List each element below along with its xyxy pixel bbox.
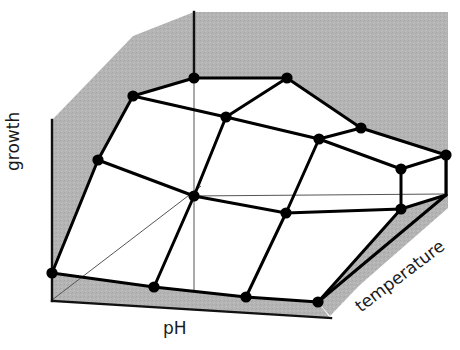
mesh-node bbox=[395, 203, 406, 214]
ph-axis-label: pH bbox=[163, 318, 187, 338]
mesh-edge bbox=[286, 139, 319, 213]
mesh-edge bbox=[98, 160, 194, 196]
mesh-node-dot bbox=[355, 122, 366, 133]
mesh-node-dot bbox=[312, 296, 323, 307]
mesh-node-dot bbox=[395, 163, 406, 174]
mesh-node-dot bbox=[220, 111, 231, 122]
mesh-node-dot bbox=[240, 291, 251, 302]
mesh-node-dot bbox=[440, 149, 451, 160]
mesh-node-dot bbox=[280, 207, 291, 218]
mesh-node bbox=[313, 133, 324, 144]
mesh-node bbox=[440, 149, 451, 160]
thin-horizontal-guide bbox=[189, 194, 444, 196]
mesh-node-dot bbox=[46, 267, 57, 278]
mesh-edge bbox=[226, 78, 287, 117]
mesh-edge bbox=[319, 128, 361, 139]
mesh-node-dot bbox=[188, 72, 199, 83]
mesh-edge bbox=[194, 117, 226, 196]
mesh-node bbox=[395, 163, 406, 174]
response-surface-plot bbox=[0, 0, 460, 350]
mesh-edge bbox=[133, 96, 226, 117]
mesh-edge bbox=[319, 139, 401, 169]
mesh-node bbox=[148, 281, 159, 292]
mesh-node bbox=[92, 154, 103, 165]
mesh-node bbox=[281, 72, 292, 83]
mesh-node bbox=[355, 122, 366, 133]
mesh-node bbox=[46, 267, 57, 278]
mesh-edge bbox=[226, 117, 319, 139]
mesh-node-dot bbox=[92, 154, 103, 165]
mesh-node-dot bbox=[188, 190, 199, 201]
mesh-node-dot bbox=[148, 281, 159, 292]
mesh-edge bbox=[154, 196, 194, 287]
mesh-node-dot bbox=[395, 203, 406, 214]
mesh-node bbox=[188, 190, 199, 201]
mesh-node bbox=[280, 207, 291, 218]
mesh-edge bbox=[286, 209, 401, 213]
mesh-node bbox=[240, 291, 251, 302]
growth-axis-label: growth bbox=[3, 112, 23, 171]
mesh-edge bbox=[194, 196, 286, 213]
mesh-node bbox=[188, 72, 199, 83]
mesh-node-dot bbox=[281, 72, 292, 83]
mesh-node-dot bbox=[127, 90, 138, 101]
mesh-node-dot bbox=[313, 133, 324, 144]
mesh-edge bbox=[246, 213, 286, 297]
response-surface-figure: growth pH temperature bbox=[0, 0, 460, 350]
mesh-node bbox=[312, 296, 323, 307]
mesh-node bbox=[127, 90, 138, 101]
mesh-edge bbox=[401, 155, 446, 169]
mesh-node bbox=[220, 111, 231, 122]
